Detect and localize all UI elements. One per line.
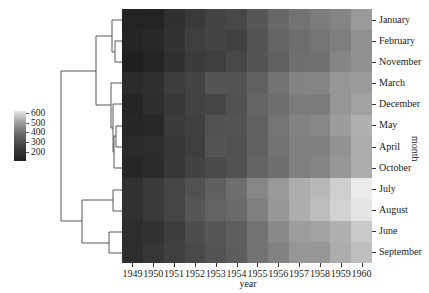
heatmap-cell [330,94,351,115]
heatmap-cell [351,72,372,93]
heatmap-cell [122,221,143,242]
x-tick [237,263,238,267]
y-tick-label: August [379,204,408,216]
heatmap-cell [268,72,289,93]
heatmap-cell [226,94,247,115]
y-tick-label: October [379,162,411,174]
y-tick [372,147,376,148]
y-tick-label: September [379,246,422,258]
heatmap-cell [268,115,289,136]
y-tick-label: April [379,141,400,153]
heatmap-cell [205,242,226,263]
heatmap-cell [185,30,206,51]
heatmap-cell [185,242,206,263]
x-tick [341,263,342,267]
heatmap-cell [226,115,247,136]
heatmap-cell [122,51,143,72]
heatmap-grid [122,9,372,263]
heatmap-cell [122,115,143,136]
y-tick-label: February [379,35,415,47]
heatmap-cell [289,199,310,220]
heatmap-cell [164,72,185,93]
heatmap-cell [351,94,372,115]
heatmap-cell [205,157,226,178]
heatmap-cell [143,221,164,242]
heatmap-cell [268,136,289,157]
heatmap-cell [205,30,226,51]
heatmap-cell [247,136,268,157]
x-tick-label: 1960 [350,268,374,280]
y-tick-label: May [379,119,397,131]
heatmap-cell [164,115,185,136]
heatmap-cell [205,199,226,220]
heatmap-cell [289,72,310,93]
heatmap-cell [330,199,351,220]
heatmap-cell [122,94,143,115]
heatmap-cell [330,51,351,72]
heatmap-cell [247,51,268,72]
heatmap-cell [268,30,289,51]
heatmap-cell [310,199,331,220]
y-tick-label: December [379,98,420,110]
colorbar-tick-label: 200 [31,147,45,157]
heatmap-cell [122,157,143,178]
colorbar-tick [26,132,29,133]
heatmap-cell [247,9,268,30]
heatmap-cell [205,94,226,115]
colorbar-tick-label: 600 [31,108,45,118]
heatmap-cell [205,221,226,242]
heatmap-cell [268,9,289,30]
heatmap-cell [268,242,289,263]
colorbar-tick [26,113,29,114]
x-tick [278,263,279,267]
clustermap-figure: JanuaryFebruaryNovemberMarchDecemberMayA… [0,0,429,293]
heatmap-cell [330,9,351,30]
heatmap-cell [268,51,289,72]
heatmap-cell [226,199,247,220]
heatmap-cell [143,115,164,136]
heatmap-cell [205,115,226,136]
heatmap-cell [268,94,289,115]
heatmap-cell [351,221,372,242]
heatmap-cell [247,157,268,178]
colorbar-tick [26,142,29,143]
heatmap-cell [122,9,143,30]
heatmap-cell [122,30,143,51]
heatmap-cell [351,136,372,157]
heatmap-cell [164,157,185,178]
heatmap-cell [289,9,310,30]
heatmap-cell [289,30,310,51]
heatmap-cell [143,30,164,51]
y-tick [372,231,376,232]
y-tick-label: November [379,56,421,68]
heatmap-cell [310,72,331,93]
x-tick [320,263,321,267]
heatmap-cell [226,178,247,199]
heatmap-cell [330,136,351,157]
heatmap-cell [143,157,164,178]
heatmap-cell [226,221,247,242]
y-tick [372,20,376,21]
heatmap-cell [205,72,226,93]
heatmap-cell [205,136,226,157]
heatmap-cell [351,30,372,51]
x-tick [216,263,217,267]
heatmap-cell [205,9,226,30]
heatmap-cell [143,199,164,220]
colorbar-tick-label: 300 [31,137,45,147]
heatmap-cell [268,221,289,242]
x-axis-title: year [236,278,260,289]
y-tick [372,83,376,84]
heatmap-cell [247,242,268,263]
heatmap-cell [351,157,372,178]
colorbar [14,111,26,161]
x-tick [299,263,300,267]
heatmap-cell [289,221,310,242]
heatmap-cell [226,72,247,93]
heatmap-cell [330,242,351,263]
heatmap-cell [289,51,310,72]
x-tick [195,263,196,267]
heatmap-cell [289,242,310,263]
heatmap-cell [330,221,351,242]
heatmap-cell [164,199,185,220]
